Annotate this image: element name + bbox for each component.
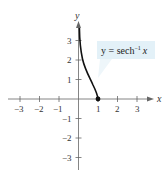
y-axis: y 1 2 3 −1 −2 −3 xyxy=(62,10,82,170)
svg-text:2: 2 xyxy=(115,104,120,114)
x-axis-label: x xyxy=(156,93,162,104)
svg-text:−3: −3 xyxy=(14,104,24,114)
x-axis: x −3 −2 −1 1 2 3 xyxy=(8,93,162,114)
svg-text:−3: −3 xyxy=(62,153,72,163)
svg-text:3: 3 xyxy=(67,36,72,46)
svg-text:−2: −2 xyxy=(34,104,44,114)
svg-text:1: 1 xyxy=(67,75,72,85)
x-arrow-icon xyxy=(147,97,154,102)
svg-text:1: 1 xyxy=(96,104,101,114)
chart: y = sech−1x x −3 −2 −1 1 2 3 y xyxy=(0,0,167,179)
svg-text:−1: −1 xyxy=(62,114,72,124)
svg-text:−2: −2 xyxy=(62,133,72,143)
y-axis-label: y xyxy=(74,10,80,21)
curve-label-text: y = sech xyxy=(101,45,134,56)
svg-text:−1: −1 xyxy=(53,104,63,114)
curve-label-callout: y = sech−1x xyxy=(97,41,155,78)
svg-text:2: 2 xyxy=(67,55,72,65)
svg-text:3: 3 xyxy=(135,104,140,114)
curve-sech-inverse xyxy=(79,28,98,99)
y-arrow-icon xyxy=(76,21,81,28)
endpoint-dot xyxy=(96,97,101,102)
